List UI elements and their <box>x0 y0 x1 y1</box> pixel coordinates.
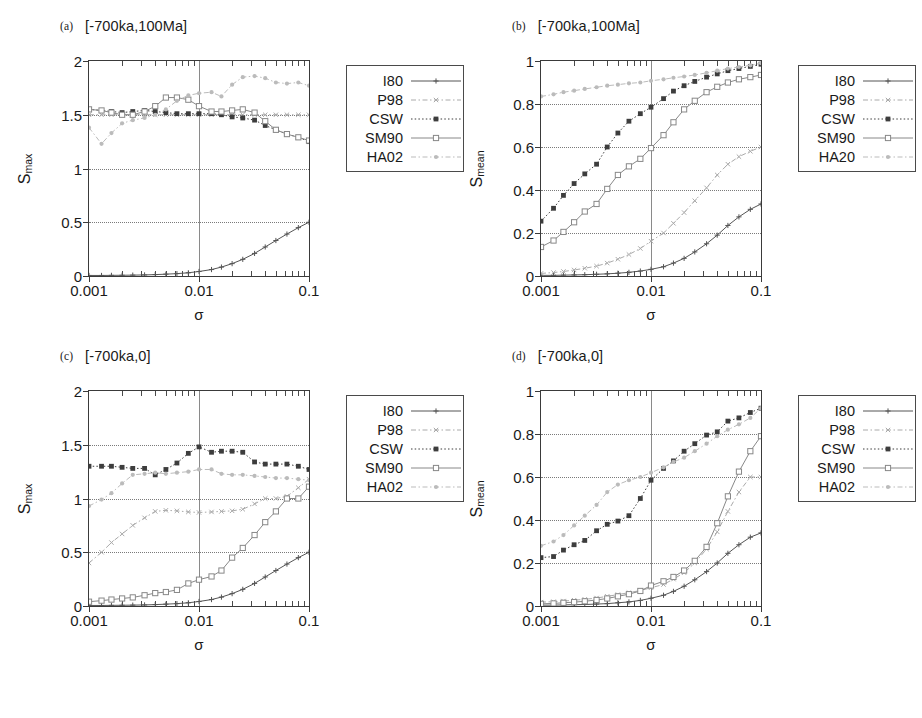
legend-item-sm90[interactable]: SM90 <box>351 128 457 147</box>
data-point <box>175 461 180 466</box>
panel-b-xaxis-title: σ <box>540 306 762 323</box>
legend-item-p98[interactable]: P98 <box>803 420 909 439</box>
series-ha02 <box>89 467 309 508</box>
data-point <box>661 133 666 138</box>
data-point <box>758 530 761 535</box>
panel-c-yaxis-title: Smax <box>14 390 36 607</box>
data-point <box>692 79 697 84</box>
legend-item-p98[interactable]: P98 <box>351 420 457 439</box>
data-point <box>582 538 587 543</box>
x-tick-label: 0.01 <box>636 612 665 629</box>
data-point <box>671 120 676 125</box>
x-tick-label: 0.1 <box>299 282 320 299</box>
data-point <box>284 231 289 236</box>
data-point <box>175 111 180 116</box>
data-point <box>605 490 609 494</box>
data-point <box>551 539 555 543</box>
x-tick-mark <box>651 606 652 612</box>
data-point <box>230 261 235 266</box>
data-point <box>252 110 257 115</box>
panel-d-tag: (d) <box>512 350 526 362</box>
data-point <box>230 555 235 560</box>
legend-item-i80[interactable]: I80 <box>351 71 457 90</box>
y-tick-mark <box>535 477 541 478</box>
data-point <box>252 74 256 78</box>
panel-a-title: (a)[-700ka,100Ma] <box>60 18 360 34</box>
y-tick-mark <box>535 61 541 62</box>
legend-item-p98[interactable]: P98 <box>351 90 457 109</box>
data-point <box>671 89 676 94</box>
data-point <box>89 599 92 604</box>
data-point <box>240 116 245 121</box>
y-tick-mark <box>535 520 541 521</box>
data-point <box>583 514 587 518</box>
data-point <box>130 603 135 606</box>
panel-b-title-text: [-700ka,100Ma] <box>538 18 640 34</box>
data-point <box>627 252 631 256</box>
legend-item-csw[interactable]: CSW <box>803 109 909 128</box>
legend-item-i80[interactable]: I80 <box>351 401 457 420</box>
data-point <box>142 116 146 120</box>
data-point <box>131 473 135 477</box>
data-point <box>163 589 168 594</box>
data-point <box>296 225 301 230</box>
data-point <box>142 593 147 598</box>
legend-item-i80[interactable]: I80 <box>803 401 909 420</box>
data-point <box>209 467 213 471</box>
legend-item-csw[interactable]: CSW <box>351 439 457 458</box>
data-point <box>671 221 675 225</box>
legend-line-sample <box>861 74 915 88</box>
data-point <box>692 441 697 446</box>
data-point <box>737 154 741 158</box>
legend-label: P98 <box>803 422 861 438</box>
data-point <box>196 599 201 604</box>
data-point <box>692 98 697 103</box>
data-point <box>230 83 234 87</box>
data-point <box>306 484 309 489</box>
series-csw <box>541 62 761 224</box>
series-ha02 <box>89 74 309 146</box>
data-point <box>638 598 643 603</box>
legend-item-sm90[interactable]: SM90 <box>803 128 909 147</box>
legend-item-i80[interactable]: I80 <box>803 71 909 90</box>
y-tick-mark <box>83 445 89 446</box>
data-point <box>130 466 135 471</box>
data-point <box>737 422 741 426</box>
y-tick-label: 0.5 <box>61 214 82 231</box>
legend-label: I80 <box>351 73 409 89</box>
panel-c-tag: (c) <box>60 350 73 362</box>
legend-item-ha02[interactable]: HA02 <box>803 477 909 496</box>
legend-item-csw[interactable]: CSW <box>351 109 457 128</box>
x-tick-mark <box>309 606 310 612</box>
y-tick-label: 0.8 <box>513 426 534 443</box>
data-point <box>541 219 543 224</box>
data-point <box>196 104 201 109</box>
legend-item-p98[interactable]: P98 <box>803 90 909 109</box>
legend-line-sample <box>861 442 915 456</box>
figure-canvas: (a)[-700ka,100Ma] Smax 00.511.520.0010.0… <box>0 0 922 718</box>
legend-item-sm90[interactable]: SM90 <box>803 458 909 477</box>
panel-c-legend: I80P98CSWSM90HA02 <box>346 395 464 502</box>
y-tick-mark <box>83 169 89 170</box>
data-point <box>648 145 653 150</box>
legend-item-ha02[interactable]: HA02 <box>351 477 457 496</box>
data-point <box>583 87 587 91</box>
data-point <box>175 471 179 475</box>
legend-item-ha20[interactable]: HA20 <box>803 147 909 166</box>
data-point <box>252 502 256 506</box>
data-point <box>759 475 761 479</box>
data-point <box>737 415 742 420</box>
legend-line-sample <box>861 150 915 164</box>
data-point <box>725 80 730 85</box>
legend-item-ha02[interactable]: HA02 <box>351 147 457 166</box>
legend-item-sm90[interactable]: SM90 <box>351 458 457 477</box>
data-point <box>616 83 620 87</box>
series-sm90 <box>89 484 309 604</box>
y-tick-label: 1.5 <box>61 436 82 453</box>
data-point <box>605 84 609 88</box>
data-point <box>284 132 289 137</box>
data-point <box>638 80 642 84</box>
panel-d-plot-inner <box>541 391 761 606</box>
legend-item-csw[interactable]: CSW <box>803 439 909 458</box>
legend-line-sample <box>861 461 915 475</box>
